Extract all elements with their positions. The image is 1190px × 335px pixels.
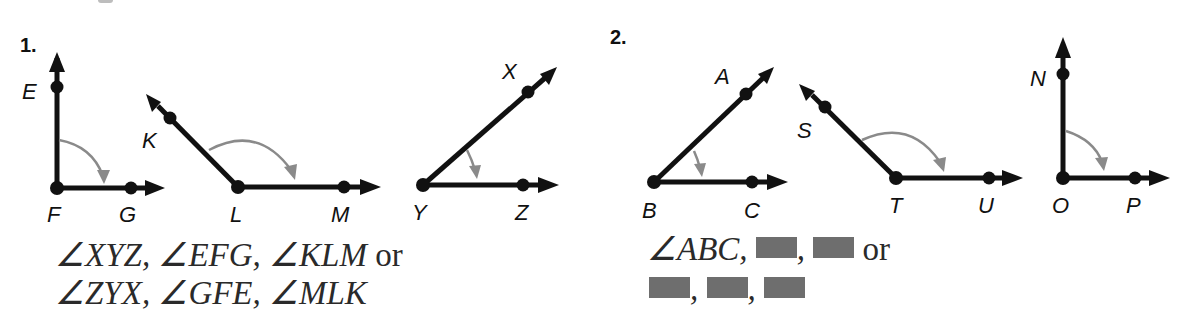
label-z: Z bbox=[514, 200, 530, 225]
label-t: T bbox=[889, 193, 904, 218]
angle-name: ∠ZYX bbox=[55, 275, 142, 311]
angle-name: ∠XYZ bbox=[55, 237, 142, 273]
angle-name: ∠ABC, bbox=[647, 231, 748, 267]
answer-blank[interactable] bbox=[764, 277, 805, 298]
point-o bbox=[1056, 171, 1070, 185]
label-l: L bbox=[230, 202, 242, 227]
point-n bbox=[1057, 68, 1070, 81]
angle-name: ∠EFG bbox=[158, 237, 252, 273]
point-u bbox=[983, 172, 996, 185]
point-s bbox=[819, 101, 832, 114]
answer-1-line-2: ∠ZYX, ∠GFE, ∠MLK bbox=[55, 274, 367, 312]
label-o: O bbox=[1052, 193, 1069, 218]
separator: , bbox=[797, 231, 805, 267]
rotation-arrow-icon bbox=[59, 140, 103, 176]
angle-name: ∠GFE bbox=[158, 275, 252, 311]
angle-name: ∠MLK bbox=[269, 275, 367, 311]
label-y: Y bbox=[412, 200, 428, 225]
separator: , bbox=[253, 237, 270, 273]
or-word: or bbox=[367, 237, 403, 273]
label-f: F bbox=[47, 202, 62, 227]
angle-stu: S T U bbox=[797, 84, 1023, 218]
arrowhead-icon bbox=[1149, 170, 1170, 186]
label-k: K bbox=[142, 128, 158, 153]
answer-1-line-1: ∠XYZ, ∠EFG, ∠KLM or bbox=[55, 236, 403, 274]
point-f bbox=[50, 181, 64, 195]
angle-name: ∠KLM bbox=[269, 237, 367, 273]
answer-2-line-2: , , bbox=[649, 270, 805, 308]
point-g bbox=[125, 182, 138, 195]
arrowhead-icon bbox=[49, 52, 65, 72]
rotation-arrowhead-icon bbox=[694, 163, 706, 177]
rotation-arrowhead-icon bbox=[284, 164, 297, 180]
exercise-number-1: 1. bbox=[20, 34, 37, 56]
separator: , bbox=[690, 271, 698, 307]
angle-abc: A B C bbox=[642, 64, 788, 223]
arrowhead-icon bbox=[538, 177, 559, 193]
or-word: or bbox=[863, 231, 891, 267]
angle-nop: N O P bbox=[1030, 37, 1170, 218]
arrowhead-icon bbox=[1055, 37, 1071, 58]
point-t bbox=[889, 171, 903, 185]
point-p bbox=[1129, 172, 1142, 185]
rotation-arrowhead-icon bbox=[933, 157, 946, 172]
rotation-arrowhead-icon bbox=[1095, 157, 1108, 171]
answer-blank[interactable] bbox=[649, 277, 690, 298]
separator: , bbox=[142, 275, 159, 311]
point-e bbox=[51, 81, 64, 94]
label-p: P bbox=[1126, 193, 1141, 218]
point-x bbox=[522, 86, 535, 99]
label-m: M bbox=[331, 202, 350, 227]
point-c bbox=[746, 176, 759, 189]
label-x: X bbox=[501, 59, 518, 84]
point-a bbox=[740, 88, 753, 101]
exercise-number-2: 2. bbox=[610, 26, 627, 48]
label-n: N bbox=[1030, 66, 1046, 91]
label-b: B bbox=[642, 198, 657, 223]
rotation-arrow-icon bbox=[1066, 131, 1102, 162]
separator: , bbox=[748, 271, 756, 307]
rotation-arrowhead-icon bbox=[97, 170, 110, 184]
angle-klm: K L M bbox=[142, 94, 381, 227]
answer-blank[interactable] bbox=[813, 237, 854, 258]
answer-blank[interactable] bbox=[756, 237, 797, 258]
answer-blank[interactable] bbox=[707, 277, 748, 298]
point-y bbox=[416, 178, 430, 192]
label-c: C bbox=[744, 198, 760, 223]
angle-xyz: X Y Z bbox=[412, 59, 559, 225]
arrowhead-icon bbox=[145, 180, 165, 196]
point-k bbox=[164, 112, 177, 125]
point-l bbox=[231, 180, 245, 194]
arrowhead-icon bbox=[767, 174, 788, 190]
label-a: A bbox=[713, 64, 730, 89]
answer-2-line-1: ∠ABC, , or bbox=[647, 230, 890, 268]
arrowhead-icon bbox=[1002, 170, 1023, 186]
separator: , bbox=[142, 237, 159, 273]
label-s: S bbox=[797, 118, 812, 143]
worksheet-page: 1. E F G K L bbox=[0, 0, 1190, 335]
label-e: E bbox=[22, 79, 37, 104]
rotation-arrow-icon bbox=[209, 141, 291, 170]
label-g: G bbox=[119, 202, 136, 227]
point-z bbox=[517, 179, 530, 192]
rotation-arrowhead-icon bbox=[469, 165, 481, 179]
label-u: U bbox=[978, 193, 994, 218]
point-b bbox=[647, 175, 661, 189]
separator: , bbox=[253, 275, 270, 311]
point-m bbox=[338, 181, 351, 194]
arrowhead-icon bbox=[360, 179, 381, 195]
